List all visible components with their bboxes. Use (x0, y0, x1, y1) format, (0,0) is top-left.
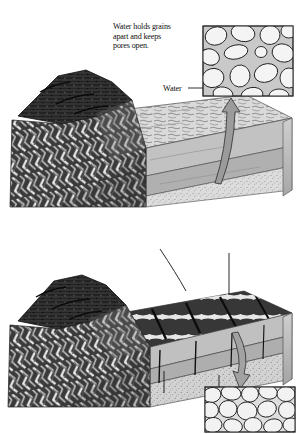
strata-right-face-after (283, 313, 292, 385)
caption-water-holds: Water holds grains apart and keeps pores… (113, 22, 209, 51)
after-block-diagram (0, 217, 300, 434)
subsided-aquifer-panel: Ground cracks; fissures and scarps devel… (0, 217, 300, 434)
undisturbed-aquifer-panel: Water holds grains apart and keeps pores… (0, 0, 300, 217)
strata-right-face (283, 118, 292, 196)
pore-space-inset-open (198, 22, 298, 104)
subsidence-figure: Water holds grains apart and keeps pores… (0, 0, 300, 434)
label-water: Water (163, 84, 182, 94)
pore-space-inset-collapsed (199, 383, 299, 434)
bedrock-mountain-before (10, 70, 146, 207)
ground-cracks-leader (160, 249, 186, 291)
bedrock-mountain-after (8, 275, 150, 407)
